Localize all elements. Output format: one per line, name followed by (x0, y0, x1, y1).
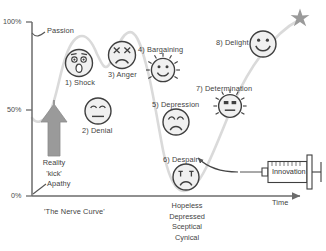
stage-label-despair: 6) Despair (163, 155, 198, 164)
figure-caption: 'The Nerve Curve' (44, 207, 105, 216)
crying-face-icon (173, 164, 199, 190)
trough-mood-stack: Hopeless Depressed Sceptical Cynical (145, 201, 229, 243)
mood-hopeless: Hopeless (145, 201, 229, 212)
stage-label-determination: 7) Determination (196, 84, 252, 93)
innovation-label: Innovation (272, 167, 306, 176)
angry-face-icon (109, 42, 136, 69)
time-axis-label: Time (272, 198, 289, 207)
shocked-face-icon (66, 50, 93, 77)
mood-cynical: Cynical (145, 233, 229, 244)
nerve-curve-figure: 100% 50% 0% Passion Apathy Time Reality … (0, 0, 326, 251)
sad-face-icon (163, 109, 189, 135)
stage-label-depression: 5) Depression (152, 100, 199, 109)
stage-label-anger: 3) Anger (108, 70, 137, 79)
reality-kick-line2: 'kick' (24, 169, 84, 180)
stage-label-bargaining: 4) Bargaining (138, 45, 183, 54)
stage-label-delight: 8) Delight (216, 38, 249, 47)
determined-radiant-face-icon (213, 89, 246, 117)
mood-sceptical: Sceptical (145, 222, 229, 233)
reality-kick-line1: Reality (24, 158, 84, 169)
hopeful-radiant-face-icon (146, 53, 180, 82)
passion-label: Passion (47, 26, 74, 35)
stage-label-denial: 2) Denial (82, 126, 112, 135)
reality-kick-annotation: Reality 'kick' (24, 158, 84, 179)
passion-leader-line (32, 32, 45, 36)
mood-depressed: Depressed (145, 212, 229, 223)
apathy-label: Apathy (47, 179, 71, 188)
y-tick-50: 50% (7, 105, 21, 114)
y-tick-100: 100% (3, 17, 21, 26)
smiling-face-icon (250, 31, 276, 57)
apathy-leader-line (33, 184, 46, 194)
stage-label-shock: 1) Shock (65, 78, 95, 87)
y-tick-0: 0% (11, 191, 21, 200)
neutral-face-icon (85, 98, 111, 124)
